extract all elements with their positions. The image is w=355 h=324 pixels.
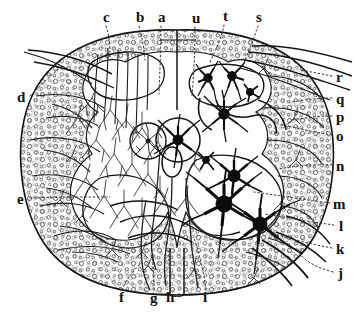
label-l: l — [339, 219, 343, 234]
label-h: h — [166, 290, 174, 305]
label-f: f — [119, 290, 124, 305]
label-u: u — [192, 11, 200, 26]
leader-j — [300, 254, 333, 272]
label-e: e — [17, 192, 24, 207]
label-c: c — [103, 10, 110, 25]
label-j: j — [338, 266, 343, 281]
label-m: m — [333, 197, 346, 212]
figure-root: c b a u t s r q p o n m l k j d e f g h … — [0, 0, 355, 324]
label-p: p — [336, 110, 344, 125]
label-b: b — [136, 10, 144, 25]
label-t: t — [223, 9, 228, 24]
label-i: i — [203, 290, 207, 305]
label-a: a — [158, 10, 166, 25]
spinal-cord-diagram — [0, 0, 355, 324]
label-r: r — [336, 70, 343, 85]
label-s: s — [256, 10, 262, 25]
label-d: d — [17, 90, 25, 105]
label-q: q — [336, 92, 344, 107]
label-n: n — [336, 159, 344, 174]
label-o: o — [336, 129, 344, 144]
label-k: k — [336, 242, 344, 257]
label-g: g — [150, 291, 158, 306]
